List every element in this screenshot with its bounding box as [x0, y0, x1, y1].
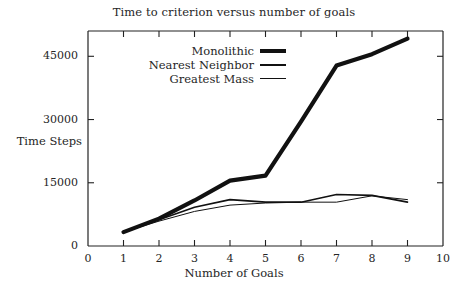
legend-label: Greatest Mass	[170, 72, 254, 86]
legend-label: Nearest Neighbor	[149, 58, 254, 72]
x-tick-label: 1	[104, 252, 144, 265]
y-tick-label: 0	[0, 239, 78, 252]
x-tick-label: 4	[210, 252, 250, 265]
x-tick-label: 5	[246, 252, 286, 265]
x-tick-label: 10	[423, 252, 463, 265]
y-tick-label: 30000	[0, 113, 78, 126]
y-axis-title: Time Steps	[17, 134, 82, 148]
x-tick-label: 9	[388, 252, 428, 265]
legend-item-monolithic: Monolithic	[120, 44, 286, 57]
legend-line-swatch-icon	[260, 78, 286, 79]
chart-page: Time to criterion versus number of goals…	[0, 0, 468, 291]
chart-legend: Monolithic Nearest Neighbor Greatest Mas…	[120, 44, 286, 86]
x-tick-label: 2	[139, 252, 179, 265]
legend-item-greatest-mass: Greatest Mass	[120, 72, 286, 85]
x-tick-label: 7	[317, 252, 357, 265]
y-tick-label: 45000	[0, 49, 78, 62]
x-tick-label: 3	[175, 252, 215, 265]
x-tick-label: 6	[281, 252, 321, 265]
legend-label: Monolithic	[191, 44, 254, 58]
legend-item-nearest-neighbor: Nearest Neighbor	[120, 58, 286, 71]
legend-line-swatch-icon	[260, 64, 286, 66]
x-tick-label: 8	[352, 252, 392, 265]
y-tick-label: 15000	[0, 176, 78, 189]
x-axis-title: Number of Goals	[0, 266, 468, 280]
legend-line-swatch-icon	[260, 49, 286, 53]
x-tick-label: 0	[68, 252, 108, 265]
